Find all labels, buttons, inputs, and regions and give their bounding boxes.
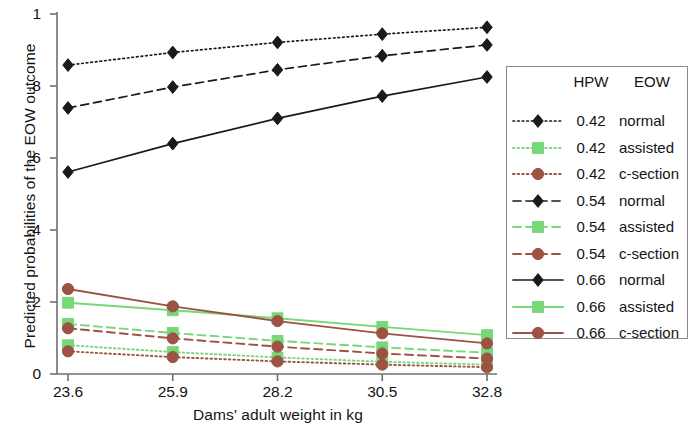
legend-eow-value: normal [619, 192, 689, 209]
legend-eow-value: assisted [619, 298, 689, 315]
legend-item[interactable]: 0.42c-section [507, 162, 689, 186]
legend-eow-value: c-section [619, 245, 689, 262]
legend-header: HPW EOW [507, 73, 689, 93]
legend-item[interactable]: 0.66assisted [507, 295, 689, 319]
legend-hpw-value: 0.54 [565, 218, 617, 235]
legend-hpw-value: 0.42 [565, 112, 617, 129]
legend-item[interactable]: 0.66normal [507, 268, 689, 292]
legend-header-hpw: HPW [565, 73, 617, 90]
x-tick-label: 28.2 [248, 383, 308, 401]
legend-eow-value: normal [619, 112, 689, 129]
legend-eow-value: assisted [619, 139, 689, 156]
legend-hpw-value: 0.66 [565, 271, 617, 288]
legend-eow-value: c-section [619, 165, 689, 182]
series-4 [63, 39, 492, 115]
series-7 [63, 71, 492, 179]
legend-item[interactable]: 0.54assisted [507, 215, 689, 239]
legend-eow-value: normal [619, 271, 689, 288]
x-tick-label: 30.5 [352, 383, 412, 401]
legend-swatch [512, 321, 564, 345]
legend-swatch [512, 109, 564, 133]
tick-marks [50, 14, 487, 381]
legend-swatch [512, 162, 564, 186]
legend-swatch [512, 242, 564, 266]
legend-swatch [512, 189, 564, 213]
x-tick-label: 25.9 [143, 383, 203, 401]
legend-hpw-value: 0.54 [565, 192, 617, 209]
legend-item[interactable]: 0.54normal [507, 189, 689, 213]
chart-figure: Predicted probabilities of the EOW outco… [0, 0, 692, 429]
legend-swatch [512, 268, 564, 292]
x-tick-label: 32.8 [457, 383, 517, 401]
legend-swatch [512, 215, 564, 239]
x-axis-title: Dams' adult weight in kg [48, 406, 508, 424]
legend-eow-value: c-section [619, 324, 689, 341]
legend-hpw-value: 0.66 [565, 324, 617, 341]
legend-hpw-value: 0.42 [565, 139, 617, 156]
x-tick-label: 23.6 [38, 383, 98, 401]
legend-item[interactable]: 0.42assisted [507, 136, 689, 160]
legend-swatch [512, 295, 564, 319]
legend-item[interactable]: 0.66c-section [507, 321, 689, 345]
legend-eow-value: assisted [619, 218, 689, 235]
legend-item[interactable]: 0.54c-section [507, 242, 689, 266]
legend-hpw-value: 0.42 [565, 165, 617, 182]
legend-swatch [512, 136, 564, 160]
legend-item[interactable]: 0.42normal [507, 109, 689, 133]
legend-hpw-value: 0.54 [565, 245, 617, 262]
legend: HPW EOW 0.42normal0.42assisted0.42c-sect… [506, 66, 688, 339]
legend-header-eow: EOW [619, 73, 685, 90]
legend-hpw-value: 0.66 [565, 298, 617, 315]
